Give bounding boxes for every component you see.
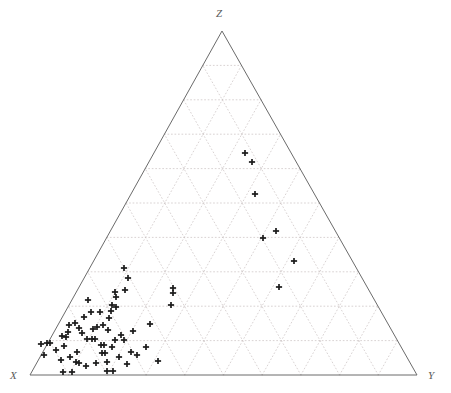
data-point-marker <box>72 320 78 326</box>
data-point-marker <box>147 321 153 327</box>
data-point-marker <box>112 337 118 343</box>
data-point-marker <box>276 284 282 290</box>
grid-line <box>378 341 397 375</box>
data-point-marker <box>125 275 131 281</box>
grid-lines-layer <box>49 65 397 375</box>
data-point-marker <box>74 349 80 355</box>
data-point-marker <box>38 341 44 347</box>
vertex-label-z: Z <box>216 7 222 19</box>
data-point-marker <box>81 314 87 320</box>
data-point-marker <box>85 297 91 303</box>
grid-line <box>146 134 280 375</box>
data-point-marker <box>130 328 136 334</box>
vertex-label-x: X <box>10 369 17 381</box>
ternary-plot-canvas <box>0 0 451 393</box>
data-points-layer <box>38 150 297 375</box>
data-point-marker <box>249 159 255 165</box>
data-point-marker <box>108 308 114 314</box>
data-point-marker <box>143 344 149 350</box>
data-point-marker <box>61 343 67 349</box>
vertex-label-y: Y <box>428 369 434 381</box>
data-point-marker <box>128 349 134 355</box>
data-point-marker <box>69 369 75 375</box>
grid-line <box>88 272 147 375</box>
data-point-marker <box>273 228 279 234</box>
grid-line <box>224 203 320 375</box>
data-point-marker <box>291 258 297 264</box>
data-point-marker <box>252 191 258 197</box>
data-point-marker <box>105 327 111 333</box>
data-point-marker <box>58 357 64 363</box>
data-point-marker <box>83 363 89 369</box>
data-point-marker <box>242 150 248 156</box>
triangle-outline <box>30 31 417 375</box>
data-point-marker <box>155 358 161 364</box>
data-point-marker <box>59 333 65 339</box>
data-point-marker <box>106 315 112 321</box>
grid-line <box>203 65 378 375</box>
data-point-marker <box>121 265 127 271</box>
data-point-marker <box>104 368 110 374</box>
data-point-marker <box>97 309 103 315</box>
data-point-marker <box>168 302 174 308</box>
data-point-marker <box>112 289 118 295</box>
data-point-marker <box>60 369 66 375</box>
data-point-marker <box>100 322 106 328</box>
grid-line <box>164 134 301 375</box>
triangle-border <box>30 31 417 375</box>
data-point-marker <box>170 290 176 296</box>
data-point-marker <box>104 359 110 365</box>
data-point-marker <box>67 354 73 360</box>
data-point-marker <box>124 361 130 367</box>
data-point-marker <box>109 344 115 350</box>
data-point-marker <box>66 322 72 328</box>
ternary-plot-figure: Z X Y <box>0 0 451 393</box>
data-point-marker <box>260 235 266 241</box>
data-point-marker <box>93 360 99 366</box>
data-point-marker <box>134 352 140 358</box>
data-point-marker <box>116 354 122 360</box>
data-point-marker <box>53 347 59 353</box>
data-point-marker <box>122 287 128 293</box>
grid-line <box>126 203 224 375</box>
data-point-marker <box>88 309 94 315</box>
grid-line <box>301 272 359 375</box>
